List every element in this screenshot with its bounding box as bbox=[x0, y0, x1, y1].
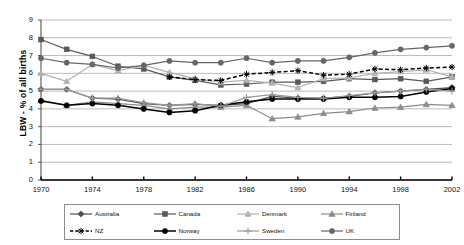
data-point-marker bbox=[218, 77, 224, 83]
x-tick-label: 1974 bbox=[76, 185, 108, 194]
data-point-marker bbox=[269, 69, 275, 75]
legend-swatch-circle-icon bbox=[320, 226, 344, 236]
plot-svg bbox=[0, 0, 464, 200]
data-point-marker bbox=[423, 65, 429, 71]
data-point-marker bbox=[167, 110, 172, 115]
lbw-line-chart: LBW - % of all births 012345678919701974… bbox=[0, 0, 464, 245]
y-tick-label: 1 bbox=[19, 157, 33, 166]
data-point-marker bbox=[192, 100, 199, 107]
legend-item-australia[interactable]: Australia bbox=[65, 205, 149, 222]
data-point-marker bbox=[162, 211, 167, 216]
data-point-marker bbox=[373, 77, 378, 82]
data-point-marker bbox=[39, 37, 44, 42]
y-tick-label: 8 bbox=[19, 33, 33, 42]
data-point-marker bbox=[64, 103, 69, 108]
data-point-marker bbox=[321, 58, 326, 63]
data-point-marker bbox=[115, 65, 120, 70]
data-point-marker bbox=[78, 227, 84, 233]
data-point-marker bbox=[115, 95, 122, 102]
legend-label: Australia bbox=[95, 210, 119, 217]
legend-swatch-plus-icon bbox=[236, 226, 260, 236]
data-point-marker bbox=[398, 76, 403, 81]
data-point-marker bbox=[372, 66, 378, 72]
legend-label: UK bbox=[346, 227, 355, 234]
legend-item-finland[interactable]: Finland bbox=[316, 205, 400, 222]
data-point-marker bbox=[424, 45, 429, 50]
y-tick-label: 3 bbox=[19, 122, 33, 131]
x-tick-label: 1978 bbox=[128, 185, 160, 194]
data-point-marker bbox=[372, 89, 379, 96]
x-tick-label: 1970 bbox=[25, 185, 57, 194]
legend-swatch-triangle-icon bbox=[320, 209, 344, 219]
legend-item-canada[interactable]: Canada bbox=[149, 205, 233, 222]
data-point-marker bbox=[38, 98, 43, 103]
data-point-marker bbox=[90, 54, 95, 59]
data-point-marker bbox=[63, 86, 70, 93]
legend-label: Finland bbox=[346, 210, 366, 217]
y-tick-label: 9 bbox=[19, 15, 33, 24]
data-point-marker bbox=[64, 47, 69, 52]
data-point-marker bbox=[398, 47, 403, 52]
series-nz bbox=[166, 64, 455, 84]
data-point-marker bbox=[64, 60, 69, 65]
data-point-marker bbox=[243, 94, 250, 101]
legend-swatch-star-icon bbox=[69, 226, 93, 236]
data-point-marker bbox=[193, 108, 198, 113]
y-tick-label: 0 bbox=[19, 175, 33, 184]
data-point-marker bbox=[243, 71, 249, 77]
data-point-marker bbox=[78, 210, 84, 216]
legend-item-norway[interactable]: Norway bbox=[149, 222, 233, 239]
legend-swatch-square-icon bbox=[153, 209, 177, 219]
data-point-marker bbox=[372, 50, 377, 55]
data-point-marker bbox=[295, 67, 301, 73]
data-point-marker bbox=[320, 72, 326, 78]
data-point-marker bbox=[449, 43, 454, 48]
data-point-marker bbox=[141, 63, 146, 68]
legend-label: Sweden bbox=[262, 227, 284, 234]
data-point-marker bbox=[295, 58, 300, 63]
legend-label: Denmark bbox=[262, 210, 287, 217]
data-point-marker bbox=[115, 103, 120, 108]
y-tick-label: 5 bbox=[19, 86, 33, 95]
x-tick-label: 1982 bbox=[179, 185, 211, 194]
data-point-marker bbox=[162, 228, 167, 233]
data-point-marker bbox=[218, 60, 223, 65]
data-point-marker bbox=[90, 101, 95, 106]
y-tick-label: 7 bbox=[19, 51, 33, 60]
legend-item-uk[interactable]: UK bbox=[316, 222, 400, 239]
data-point-marker bbox=[449, 64, 455, 70]
legend-label: Canada bbox=[179, 210, 201, 217]
legend-label: NZ bbox=[95, 227, 103, 234]
data-point-marker bbox=[193, 60, 198, 65]
y-tick-label: 4 bbox=[19, 104, 33, 113]
data-point-marker bbox=[424, 79, 429, 84]
legend-swatch-diamond-icon bbox=[69, 209, 93, 219]
legend-item-nz[interactable]: NZ bbox=[65, 222, 149, 239]
data-point-marker bbox=[90, 62, 95, 67]
x-tick-label: 1998 bbox=[385, 185, 417, 194]
x-tick-label: 1994 bbox=[333, 185, 365, 194]
data-point-marker bbox=[244, 56, 249, 61]
data-point-marker bbox=[346, 71, 352, 77]
chart-legend: AustraliaCanadaDenmarkFinlandNZNorwaySwe… bbox=[64, 204, 400, 240]
legend-item-denmark[interactable]: Denmark bbox=[232, 205, 316, 222]
legend-swatch-triangle-icon bbox=[236, 209, 260, 219]
data-point-marker bbox=[329, 228, 334, 233]
data-point-marker bbox=[347, 55, 352, 60]
legend-item-sweden[interactable]: Sweden bbox=[232, 222, 316, 239]
data-point-marker bbox=[270, 60, 275, 65]
data-point-marker bbox=[245, 227, 252, 234]
data-point-marker bbox=[192, 76, 198, 82]
x-tick-label: 2002 bbox=[436, 185, 464, 194]
x-tick-label: 1986 bbox=[231, 185, 263, 194]
data-point-marker bbox=[38, 86, 45, 93]
data-point-marker bbox=[398, 94, 403, 99]
data-point-marker bbox=[166, 74, 172, 80]
series-line bbox=[169, 67, 452, 80]
legend-label: Norway bbox=[179, 227, 200, 234]
data-point-marker bbox=[167, 58, 172, 63]
y-tick-label: 6 bbox=[19, 68, 33, 77]
data-point-marker bbox=[397, 67, 403, 73]
y-tick-label: 2 bbox=[19, 139, 33, 148]
data-point-marker bbox=[166, 102, 173, 109]
